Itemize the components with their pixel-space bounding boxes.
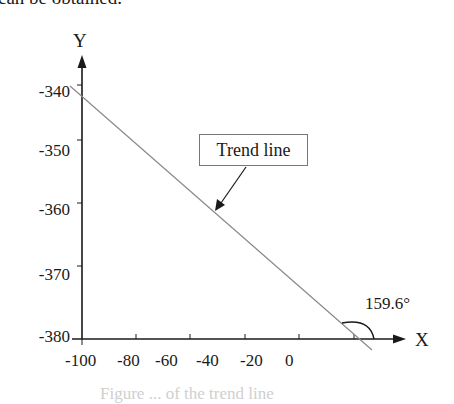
trend-line (70, 86, 372, 350)
y-tick-label: -340 (10, 82, 70, 102)
angle-label: 159.6° (365, 294, 410, 314)
figure-caption-fragment: Figure ... of the trend line (100, 384, 274, 404)
y-axis-title: Y (73, 30, 87, 52)
y-tick-label: -350 (10, 141, 70, 161)
x-tick-label: -40 (196, 351, 219, 371)
y-tick-label: -360 (10, 200, 70, 220)
x-tick-label: -20 (240, 351, 263, 371)
x-axis-title: X (415, 329, 429, 351)
angle-arc (342, 322, 374, 339)
x-tick-label: -100 (65, 351, 96, 371)
x-tick-label: -60 (155, 351, 178, 371)
pointer-arrowhead-icon (215, 199, 225, 211)
x-axis-arrow-icon (393, 335, 406, 344)
trend-line-label: Trend line (199, 134, 308, 166)
x-tick-label: 0 (285, 351, 294, 371)
trend-label-pointer (221, 167, 246, 203)
x-tick-label: -80 (117, 351, 140, 371)
y-axis-arrow-icon (78, 55, 87, 68)
y-tick-label: -380 (10, 327, 70, 347)
y-tick-label: -370 (10, 265, 70, 285)
